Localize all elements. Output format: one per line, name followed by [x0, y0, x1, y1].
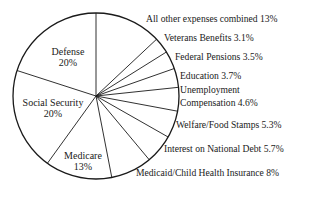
label-veterans: Veterans Benefits 3.1% [164, 32, 254, 43]
label-pensions: Federal Pensions 3.5% [175, 51, 263, 62]
label-unemployment-line2: Compensation 4.6% [180, 97, 258, 108]
label-unemployment-line1: Unemployment [180, 84, 240, 95]
label-welfare: Welfare/Food Stamps 5.3% [176, 119, 282, 130]
label-medicaid: Medicaid/Child Health Insurance 8% [136, 167, 279, 178]
label-interest: Interest on National Debt 5.7% [164, 143, 284, 154]
label-all-other: All other expenses combined 13% [146, 13, 278, 24]
label-education: Education 3.7% [180, 70, 241, 81]
label-social-security: Social Security 20% [16, 97, 90, 119]
label-defense: Defense 20% [38, 46, 98, 68]
label-medicare: Medicare 13% [58, 150, 108, 172]
